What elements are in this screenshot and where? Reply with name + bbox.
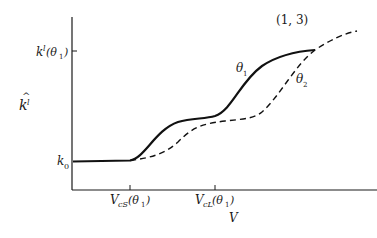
svg-text:): ) <box>63 46 68 59</box>
y-tick-label-k0: k 0 <box>57 154 69 171</box>
curve-theta2 <box>130 31 357 161</box>
x-axis-label: V <box>229 211 239 225</box>
svg-text:cS: cS <box>118 200 128 209</box>
svg-text:(θ: (θ <box>46 46 57 59</box>
y-tick-label-k1-theta1: k l (θ 1 ) <box>36 44 68 61</box>
svg-text:(θ: (θ <box>128 194 139 207</box>
svg-text:0: 0 <box>64 162 69 171</box>
svg-text:1: 1 <box>59 53 63 61</box>
svg-text:2: 2 <box>303 81 307 89</box>
svg-text:1: 1 <box>243 70 247 78</box>
x-tick-label-vcl: V cL (θ 1 ) <box>195 193 234 209</box>
x-tick-label-vcs: V cS (θ 1 ) <box>110 193 150 209</box>
svg-text:1: 1 <box>141 201 145 209</box>
svg-text:): ) <box>145 194 150 207</box>
panel-label: (1, 3) <box>276 13 308 27</box>
curve-label-theta1: θ 1 <box>236 61 247 78</box>
svg-text:): ) <box>229 194 234 207</box>
diagram-canvas: (1, 3) ^ k l k l (θ 1 ) k 0 V cS (θ 1 ) … <box>0 0 377 238</box>
svg-text:(θ: (θ <box>212 194 223 207</box>
svg-text:1: 1 <box>225 201 229 209</box>
y-axis-label: ^ k l <box>19 90 30 113</box>
curve-label-theta2: θ 2 <box>296 72 307 89</box>
curve-theta1 <box>73 50 315 162</box>
svg-text:l: l <box>27 98 30 107</box>
